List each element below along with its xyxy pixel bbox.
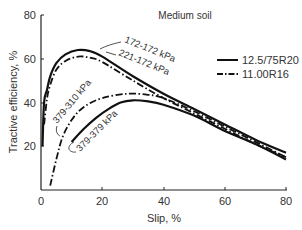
- annotation-379-379: 379-379 kPa: [74, 107, 120, 153]
- x-tick-40: 40: [158, 195, 170, 207]
- tractive-efficiency-chart: 20 40 60 80 0 20 40 60 80 Slip, % Tracti…: [0, 0, 302, 230]
- x-tick-labels: 0 20 40 60 80: [38, 195, 292, 207]
- y-tick-80: 80: [24, 9, 36, 21]
- x-axis-label: Slip, %: [147, 212, 181, 224]
- y-tick-labels: 20 40 60 80: [24, 9, 36, 152]
- legend: 12.5/75R20 11.00R16: [217, 54, 299, 80]
- y-axis-label: Tractive efficiency, %: [7, 51, 19, 154]
- x-tick-80: 80: [280, 195, 292, 207]
- y-tick-60: 60: [24, 53, 36, 65]
- legend-dashdot-label: 11.00R16: [242, 68, 289, 80]
- x-tick-20: 20: [96, 195, 108, 207]
- x-tick-0: 0: [38, 195, 44, 207]
- y-tick-40: 40: [24, 97, 36, 109]
- y-tick-20: 20: [24, 140, 36, 152]
- chart-title: Medium soil: [158, 10, 211, 21]
- x-tick-60: 60: [219, 195, 231, 207]
- axes: [41, 15, 287, 190]
- annotation-379-310: 379-310 kPa: [50, 76, 94, 125]
- legend-solid-label: 12.5/75R20: [242, 54, 299, 66]
